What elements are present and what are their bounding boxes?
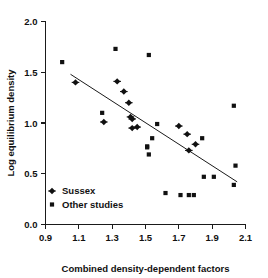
data-point-other-studies [147, 53, 151, 57]
data-point-sussex-arm [175, 125, 183, 126]
data-point-sussex-arm [113, 81, 121, 82]
data-point-other-studies [178, 193, 182, 197]
y-axis-title: Log equilibrium density [5, 69, 16, 177]
data-point-sussex-arm [133, 127, 141, 128]
x-tick-label: 2.1 [239, 232, 253, 243]
x-tick-label: 1.3 [106, 232, 119, 243]
regression-line [71, 74, 238, 182]
data-point-other-studies [187, 193, 191, 197]
data-point-other-studies [60, 60, 64, 64]
data-point-sussex-arm [125, 102, 133, 103]
data-point-sussex-arm [185, 150, 193, 151]
x-tick-label: 0.9 [39, 232, 52, 243]
data-point-other-studies [232, 104, 236, 108]
data-point-other-studies [155, 122, 159, 126]
data-point-other-studies [145, 145, 149, 149]
data-point-other-studies [232, 183, 236, 187]
data-point-other-studies [147, 152, 151, 156]
x-tick-label: 1.5 [139, 232, 153, 243]
legend-label-other-studies: Other studies [62, 199, 123, 210]
data-point-other-studies [192, 193, 196, 197]
y-tick-label: 2.0 [24, 16, 37, 27]
y-tick-label: 1.0 [24, 118, 37, 129]
data-point-other-studies [212, 175, 216, 179]
data-point-other-studies [100, 111, 104, 115]
y-tick-label: 0.0 [24, 219, 37, 230]
legend-marker-other-studies [50, 202, 54, 206]
data-point-other-studies [202, 175, 206, 179]
legend-label-sussex: Sussex [62, 185, 96, 196]
y-tick-label: 0.5 [24, 168, 38, 179]
data-point-sussex-arm [100, 121, 108, 122]
x-axis-title: Combined density-dependent factors [62, 263, 230, 274]
x-tick-label: 1.9 [206, 232, 219, 243]
data-point-other-studies [163, 191, 167, 195]
data-point-other-studies [200, 136, 204, 140]
y-tick-label: 1.5 [24, 67, 38, 78]
scatter-plot-figure: 0.00.51.01.52.00.91.11.31.51.71.92.1Comb… [0, 0, 268, 278]
data-point-sussex-arm [192, 144, 200, 145]
data-point-other-studies [150, 136, 154, 140]
x-tick-label: 1.7 [172, 232, 185, 243]
data-point-sussex-arm [120, 91, 128, 92]
data-point-other-studies [113, 47, 117, 51]
x-tick-label: 1.1 [72, 232, 86, 243]
chart-canvas: 0.00.51.01.52.00.91.11.31.51.71.92.1Comb… [0, 0, 268, 278]
data-point-other-studies [233, 164, 237, 168]
data-point-sussex-arm [128, 118, 136, 119]
data-point-sussex-arm [183, 134, 191, 135]
data-point-sussex-arm [72, 82, 80, 83]
legend-marker-sussex-arm [48, 190, 56, 191]
